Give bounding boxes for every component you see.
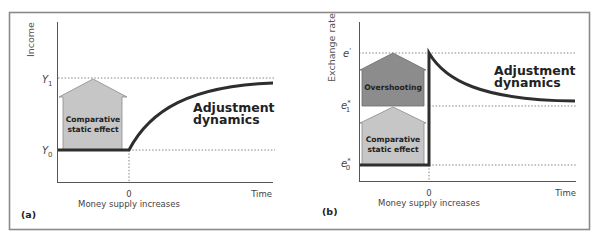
economics-diagram: Comparative static effect Income Y1 Y0 0… [0,0,597,239]
overshooting-label: Overshooting [364,83,422,92]
e1-star-label: e*1 [341,99,351,114]
y1-label: Y1 [42,74,53,88]
money-supply-increases-label: Money supply increases [378,198,480,208]
zero-tick-label: 0 [426,188,431,198]
zero-tick-label: 0 [126,189,131,199]
comparative-static-label-line1: Comparative [366,135,420,144]
adjustment-dynamics-label-line2: dynamics [494,75,561,90]
y-axis-title: Income [25,22,36,57]
comparative-static-label-line2: static effect [67,125,119,134]
comparative-static-label-line2: static effect [367,145,419,154]
y-axis-title: Exchange rate [326,13,337,82]
comparative-static-label-line1: Comparative [66,115,120,124]
panel-b-exchange-rate: Overshooting Comparative static effect E… [322,13,576,217]
overshooting-arrow [360,53,426,106]
money-supply-increases-label: Money supply increases [78,199,180,209]
panel-a-label: (a) [21,209,36,220]
panel-b-label: (b) [322,206,337,217]
y0-label: Y0 [42,145,53,159]
time-axis-label: Time [554,188,576,198]
time-axis-label: Time [250,189,272,199]
e-prime-label: e' [343,47,351,59]
adjustment-dynamics-label-line2: dynamics [193,112,260,127]
e0-star-label: e*0 [341,157,351,172]
panel-a-income: Comparative static effect Income Y1 Y0 0… [21,22,275,220]
